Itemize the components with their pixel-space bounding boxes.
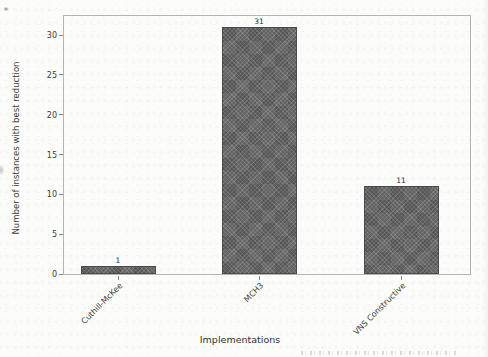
y-tick-label: 20 [47, 111, 57, 120]
x-tick-label: Cuthill-McKee [80, 281, 125, 326]
y-tick-mark [59, 154, 63, 155]
y-tick-mark [59, 274, 63, 275]
y-axis-label: Number of instances with best reduction [11, 62, 21, 235]
y-tick-label: 25 [47, 71, 57, 80]
bar-value-label: 11 [396, 176, 406, 185]
x-tick-mark [259, 276, 260, 280]
plot-area: 05101520253013111 [63, 15, 471, 275]
bar-1 [222, 27, 297, 274]
x-axis-label: Implementations [200, 334, 280, 345]
y-tick-mark [59, 234, 63, 235]
bar-value-label: 31 [254, 17, 264, 26]
y-tick-mark [59, 74, 63, 75]
bar-value-label: 1 [116, 256, 121, 265]
y-tick-mark [59, 35, 63, 36]
y-tick-label: 0 [52, 270, 57, 279]
cropped-caption-fragment [301, 351, 456, 355]
x-tick-label: VNS Constructive [352, 281, 408, 337]
x-tick-mark [118, 276, 119, 280]
y-tick-label: 30 [47, 31, 57, 40]
y-tick-mark [59, 114, 63, 115]
bar-chart: Number of instances with best reduction … [0, 0, 488, 357]
bar-0 [81, 266, 156, 274]
y-tick-label: 15 [47, 151, 57, 160]
y-tick-label: 10 [47, 190, 57, 199]
x-tick-label: MCH3 [242, 281, 265, 304]
y-tick-mark [59, 194, 63, 195]
scanned-figure-page: Number of instances with best reduction … [0, 0, 488, 357]
y-tick-label: 5 [52, 230, 57, 239]
x-tick-mark [401, 276, 402, 280]
bar-2 [364, 186, 439, 274]
